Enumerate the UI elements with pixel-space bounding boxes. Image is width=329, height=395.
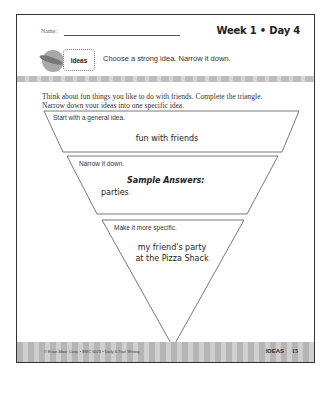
level-3-answer-line2[interactable]: at the Pizza Shack xyxy=(117,254,227,263)
worksheet-page: Name: Week 1 • Day 4 Ideas Choose a stro… xyxy=(16,14,315,363)
level-1-label: Start with a general idea. xyxy=(53,114,125,121)
footer-section-label: IDEAS xyxy=(266,348,284,354)
page-number: 15 xyxy=(292,348,298,354)
level-3-answer-line1[interactable]: my friend's party xyxy=(117,243,227,252)
level-2-answer[interactable]: parties xyxy=(101,188,129,197)
level-2-label: Narrow it down. xyxy=(79,160,124,167)
level-1-answer[interactable]: fun with friends xyxy=(107,134,227,143)
level-3-label: Make it more specific. xyxy=(114,224,177,231)
sample-answers-heading: Sample Answers: xyxy=(127,176,205,185)
copyright-text: © Evan-Moor Corp. • EMC 6023 • Daily 6-T… xyxy=(44,349,140,354)
narrowing-triangle-diagram xyxy=(17,15,316,364)
level-3-triangle xyxy=(102,220,244,347)
page-footer: © Evan-Moor Corp. • EMC 6023 • Daily 6-T… xyxy=(17,342,314,362)
